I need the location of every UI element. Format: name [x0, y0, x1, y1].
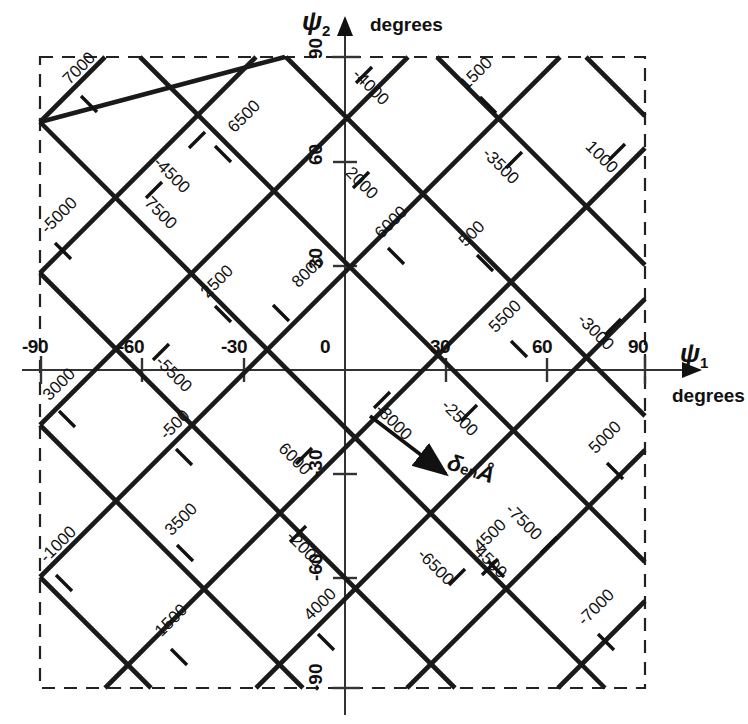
x-tick-label-0: 0 [320, 336, 330, 358]
x-tick-label--90: -90 [22, 336, 48, 358]
x-axis-name: ψ1 [680, 338, 708, 371]
plot-canvas [0, 0, 748, 724]
contour-figure: ψ2 degrees ψ1 degrees -90 -60 -30 0 30 6… [0, 0, 748, 724]
contour-family-negative [40, 57, 645, 688]
y-axis-units: degrees [370, 14, 443, 36]
x-tick-label--60: -60 [118, 336, 144, 358]
x-axis-units: degrees [672, 385, 745, 407]
contour-family-positive [40, 57, 645, 688]
x-tick-label-30: 30 [430, 336, 450, 358]
y-tick-label-90: 90 [305, 38, 327, 59]
x-tick-label-90: 90 [628, 336, 648, 358]
y-tick-label-60: 60 [305, 144, 327, 165]
y-axis-name: ψ2 [302, 6, 330, 39]
x-tick-label-60: 60 [532, 336, 552, 358]
x-tick-label--30: -30 [221, 336, 247, 358]
plot-border [40, 57, 645, 688]
y-tick-label--90: -90 [305, 664, 327, 691]
